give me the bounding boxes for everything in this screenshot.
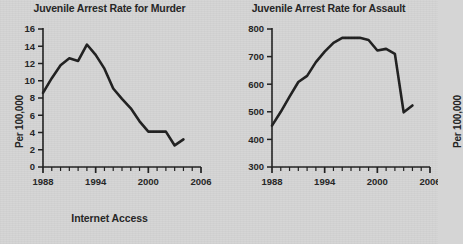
y-ticks-assault: 300400500600700800	[248, 23, 272, 172]
x-tick-label: 1994	[314, 176, 336, 187]
data-line-assault	[272, 38, 412, 126]
y-tick-label: 12	[24, 58, 35, 69]
y-tick-label: 16	[24, 23, 35, 34]
y-tick-label: 500	[248, 106, 264, 117]
plot-area-assault: 300400500600700800 1988199420002006	[219, 14, 438, 214]
chart-title-murder: Juvenile Arrest Rate for Murder	[0, 2, 219, 14]
x-tick-label: 1988	[261, 176, 282, 187]
x-tick-label: 2000	[138, 176, 159, 187]
y-tick-label: 600	[248, 79, 264, 90]
y-ticks-murder: 0246810121416	[24, 23, 43, 172]
y-tick-label: 700	[248, 51, 264, 62]
chart-title-assault: Juvenile Arrest Rate for Assault	[219, 2, 438, 14]
x-tick-label: 2006	[190, 176, 211, 187]
y-tick-label: 300	[248, 161, 264, 172]
x-tick-label: 2000	[367, 176, 388, 187]
y-tick-label: 8	[30, 92, 35, 103]
axis-lines-assault	[272, 28, 430, 167]
y-tick-label: 800	[248, 23, 264, 34]
y-tick-label: 400	[248, 134, 264, 145]
y-tick-label: 14	[24, 41, 35, 52]
y-tick-label: 4	[30, 127, 36, 138]
y-axis-label-assault: Per 100,000	[452, 95, 463, 148]
y-tick-label: 0	[30, 161, 35, 172]
y-tick-label: 6	[30, 110, 35, 121]
x-ticks-assault: 1988199420002006	[261, 167, 438, 187]
y-tick-label: 10	[24, 75, 35, 86]
x-tick-label: 2006	[419, 176, 438, 187]
plot-area-murder: 0246810121416 1988199420002006	[0, 14, 219, 214]
x-tick-label: 1994	[85, 176, 107, 187]
chart-panel-assault: Juvenile Arrest Rate for Assault Per 100…	[219, 0, 438, 244]
x-tick-label: 1988	[32, 176, 53, 187]
x-ticks-murder: 1988199420002006	[32, 167, 211, 187]
chart-panel-murder: Juvenile Arrest Rate for Murder Per 100,…	[0, 0, 219, 244]
y-tick-label: 2	[30, 144, 35, 155]
x-axis-label-murder: Internet Access	[0, 212, 219, 224]
data-line-murder	[43, 45, 183, 146]
